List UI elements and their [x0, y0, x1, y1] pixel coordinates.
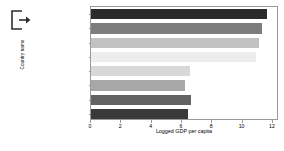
bar[interactable] — [91, 9, 267, 19]
bar-row: Mozambique — [91, 64, 277, 78]
y-tick-mark — [89, 43, 92, 44]
bar[interactable] — [91, 52, 256, 62]
bar-row: Malawi — [91, 93, 277, 107]
bar-row: Ireland — [91, 36, 277, 50]
y-tick-mark — [89, 14, 92, 15]
bar-row: Burundi — [91, 107, 277, 121]
bar-chart-figure: Country name LuxembourgSingaporeIrelandS… — [0, 0, 284, 151]
bar-row: Switzerland — [91, 50, 277, 64]
y-axis-title: Country name — [20, 15, 25, 95]
bar[interactable] — [91, 80, 185, 90]
bar-row: Niger — [91, 78, 277, 92]
bar[interactable] — [91, 66, 190, 76]
y-tick-mark — [89, 71, 92, 72]
plot-area: LuxembourgSingaporeIrelandSwitzerlandMoz… — [90, 6, 278, 120]
bar-row: Luxembourg — [91, 7, 277, 21]
y-tick-mark — [89, 28, 92, 29]
y-tick-mark — [89, 100, 92, 101]
bar[interactable] — [91, 95, 191, 105]
screenshot-root: Country name LuxembourgSingaporeIrelandS… — [0, 0, 284, 151]
bar-row: Singapore — [91, 21, 277, 35]
y-tick-mark — [89, 114, 92, 115]
bar[interactable] — [91, 23, 262, 33]
x-axis-title: Logged GDP per capita — [90, 128, 278, 134]
bars-container: LuxembourgSingaporeIrelandSwitzerlandMoz… — [91, 7, 277, 119]
y-tick-mark — [89, 85, 92, 86]
bar[interactable] — [91, 109, 188, 119]
y-tick-mark — [89, 57, 92, 58]
bar[interactable] — [91, 38, 259, 48]
